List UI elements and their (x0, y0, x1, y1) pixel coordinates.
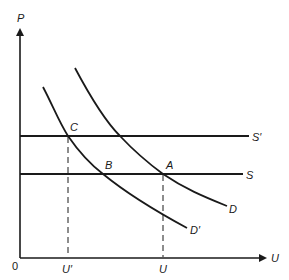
demand-curve-d-prime (43, 87, 187, 228)
supply-label-s-prime: S′ (252, 131, 262, 143)
x-tick-label-u: U (159, 263, 167, 275)
diagram-canvas: P U 0 S′ S D D′ C B A U′ U (0, 0, 289, 280)
point-label-a: A (165, 159, 173, 171)
point-label-c: C (70, 121, 78, 133)
point-label-b: B (105, 159, 112, 171)
demand-label-d: D (229, 203, 237, 215)
y-axis-label: P (17, 12, 25, 24)
supply-label-s: S (246, 169, 254, 181)
demand-label-d-prime: D′ (190, 224, 201, 236)
demand-curve-d (75, 68, 227, 206)
x-axis-label: U (271, 252, 279, 264)
origin-label: 0 (12, 260, 18, 272)
x-tick-label-u-prime: U′ (62, 263, 73, 275)
